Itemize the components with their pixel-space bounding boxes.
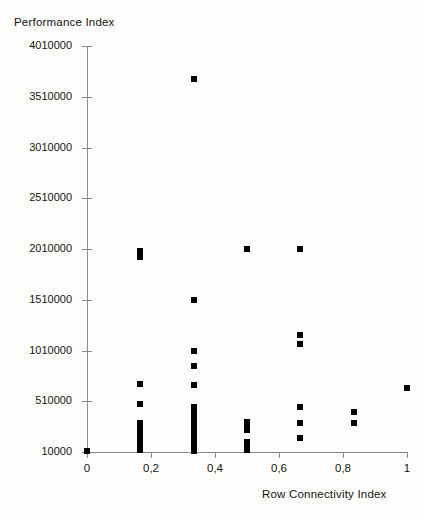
y-tick-mark [82, 249, 92, 250]
x-tick-label: 0,4 [195, 462, 235, 474]
data-point [297, 404, 303, 410]
data-point [137, 381, 143, 387]
x-tick-label: 1 [387, 462, 422, 474]
data-point [297, 435, 303, 441]
data-point [191, 348, 197, 354]
y-tick-label: 10000 [0, 445, 72, 457]
y-tick-mark [82, 97, 92, 98]
y-tick-label: 1010000 [0, 344, 72, 356]
y-tick-label: 2010000 [0, 242, 72, 254]
data-point [351, 420, 357, 426]
y-tick-label: 2510000 [0, 191, 72, 203]
data-point [244, 447, 250, 453]
x-axis-title: Row Connectivity Index [262, 488, 387, 500]
x-tick-label: 0,8 [323, 462, 363, 474]
data-point [137, 401, 143, 407]
data-point [137, 447, 143, 453]
x-tick-label: 0 [67, 462, 107, 474]
data-point [191, 382, 197, 388]
y-tick-label: 510000 [0, 394, 72, 406]
data-point [191, 76, 197, 82]
y-tick-mark [82, 148, 92, 149]
x-tick-mark [343, 452, 344, 458]
x-tick-label: 0,2 [131, 462, 171, 474]
data-point [244, 427, 250, 433]
y-tick-label: 1510000 [0, 293, 72, 305]
data-point [351, 409, 357, 415]
scatter-plot: Performance Index 1000051000010100001510… [0, 0, 422, 519]
y-tick-label: 3010000 [0, 141, 72, 153]
y-tick-mark [82, 198, 92, 199]
y-tick-mark [82, 351, 92, 352]
x-tick-mark [151, 452, 152, 458]
y-tick-label: 3510000 [0, 90, 72, 102]
data-point [191, 363, 197, 369]
data-point [404, 385, 410, 391]
data-point [297, 420, 303, 426]
data-point [191, 297, 197, 303]
x-tick-mark [279, 452, 280, 458]
data-point [84, 448, 90, 454]
y-tick-mark [82, 401, 92, 402]
plot-title: Performance Index [14, 16, 115, 28]
y-tick-mark [82, 300, 92, 301]
x-tick-mark [407, 452, 408, 458]
x-tick-mark [215, 452, 216, 458]
x-tick-label: 0,6 [259, 462, 299, 474]
y-tick-label: 4010000 [0, 39, 72, 51]
data-point [244, 246, 250, 252]
data-point [191, 448, 197, 454]
data-point [297, 246, 303, 252]
data-point [137, 254, 143, 260]
data-point [297, 341, 303, 347]
data-point [297, 332, 303, 338]
y-tick-mark [82, 46, 92, 47]
